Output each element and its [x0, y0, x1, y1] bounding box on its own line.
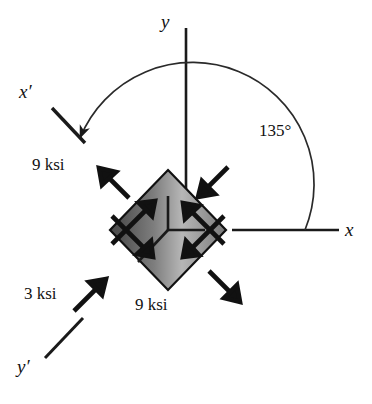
stress-label-shear-lower-left: 3 ksi: [24, 285, 57, 302]
axis-label-x-prime: x′: [19, 82, 32, 101]
normal-arrow-upper-right: [207, 167, 228, 188]
normal-arrow-lower-right: [209, 271, 231, 293]
axis-label-y-prime: y′: [17, 357, 30, 376]
stress-element-figure: y x x′ y′ 135° 9 ksi 3 ksi 9 ksi: [0, 0, 372, 404]
stress-label-normal-bottom: 9 ksi: [135, 296, 168, 313]
angle-label: 135°: [259, 122, 291, 139]
stress-diagram-svg: [0, 0, 372, 404]
axis-label-y: y: [161, 12, 169, 31]
normal-arrow-lower-left: [74, 288, 97, 311]
normal-arrow-upper-left: [108, 177, 129, 198]
stress-label-normal-left: 9 ksi: [32, 156, 65, 173]
axis-label-x: x: [345, 220, 353, 239]
y-prime-axis-line: [45, 318, 83, 358]
